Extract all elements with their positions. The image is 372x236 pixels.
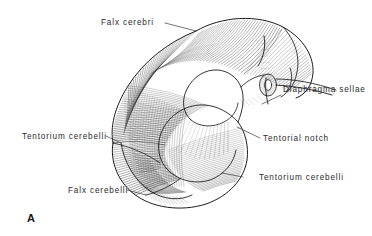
dural-folds-illustration: Falx cerebri Diaphragma sellae Tentorial… [0,0,372,236]
label-tentorium-cerebelli-right: Tentorium cerebelli [259,173,344,182]
figure-plate: Falx cerebri Diaphragma sellae Tentorial… [0,0,372,236]
label-falx-cerebri: Falx cerebri [101,18,154,27]
label-diaphragma-sellae: Diaphragma sellae [283,85,366,94]
label-tentorium-cerebelli-left: Tentorium cerebelli [22,132,107,141]
label-tentorial-notch: Tentorial notch [263,134,329,143]
panel-letter: A [27,212,35,224]
label-falx-cerebelli: Falx cerebelli [68,186,128,195]
